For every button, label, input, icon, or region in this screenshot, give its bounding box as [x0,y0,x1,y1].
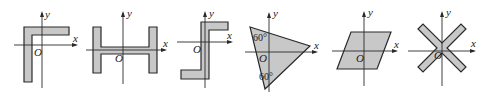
y-axis-arrow-icon [267,12,271,18]
x-axis-arrow-icon [470,49,476,53]
x-label: x [470,37,476,49]
y-label: y [272,7,278,19]
y-label: y [208,7,214,19]
angle-label-bottom: 60° [259,71,273,82]
l-shape [24,27,69,82]
figure-1-l-shape: y x O [14,8,78,88]
y-axis-arrow-icon [40,11,44,17]
x-label: x [162,37,168,49]
y-label: y [367,6,373,18]
y-axis-arrow-icon [203,11,207,17]
origin-label: O [259,52,267,64]
x-label: x [393,38,399,50]
origin-label: O [193,43,201,55]
y-label: y [445,6,451,18]
origin-label: O [434,49,442,61]
figure-6-x-shape: y x O [408,6,476,86]
y-axis-arrow-icon [121,11,125,17]
origin-label: O [356,52,364,64]
y-label: y [126,7,132,19]
figure-2-h-shape: y x O [86,7,168,84]
y-axis-arrow-icon [440,11,444,17]
figure-set: y x O y x O y x O y x O 60° 60° [0,0,486,100]
z-shape [181,22,228,79]
y-label: y [44,8,50,20]
origin-label: O [115,52,123,64]
figure-4-triangle: y x O 60° 60° [245,7,319,92]
figure-3-z-shape: y x O [177,7,233,88]
y-axis-arrow-icon [362,11,366,17]
x-label: x [313,39,319,51]
x-label: x [72,32,78,44]
x-label: x [226,29,232,41]
figure-5-parallelogram: y x O [332,6,399,86]
angle-label-top: 60° [253,32,267,43]
origin-label: O [34,46,42,58]
